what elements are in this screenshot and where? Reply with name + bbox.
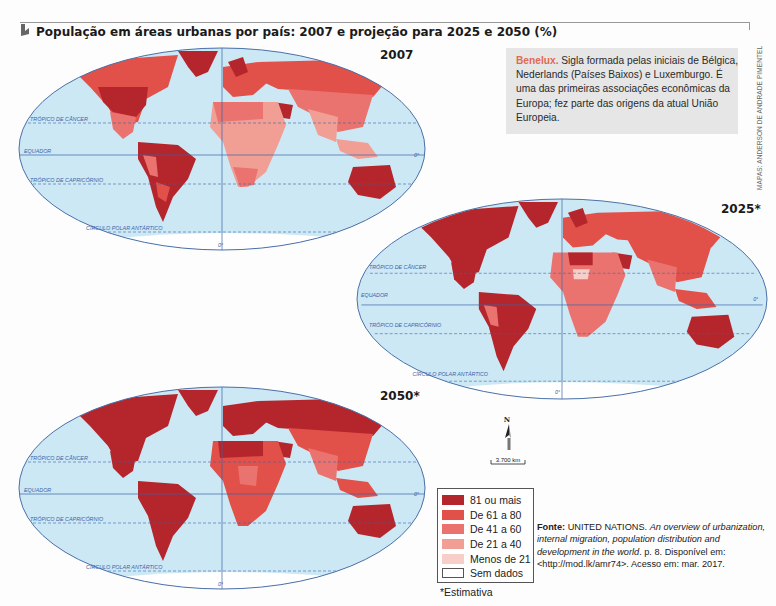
map-year-label: 2007 [380, 48, 413, 62]
label-tropic-cancer: TRÓPICO DE CÂNCER [369, 264, 426, 270]
label-tropic-cancer: TRÓPICO DE CÂNCER [30, 116, 88, 122]
label-equator: EQUADOR [24, 148, 51, 154]
map-legend: 81 ou mais De 61 a 80 De 41 a 60 De 21 a… [437, 488, 534, 583]
north-label: N [504, 415, 511, 424]
label-tropic-capricorn: TRÓPICO DE CAPRICÓRNIO [30, 177, 104, 183]
map-year-label: 2025* [721, 202, 761, 216]
label-tropic-capricorn: TRÓPICO DE CAPRICÓRNIO [369, 322, 441, 328]
label-tropic-cancer: TRÓPICO DE CÂNCER [30, 455, 88, 461]
estimate-note: *Estimativa [440, 586, 493, 598]
benelux-keyword: Benelux. [516, 55, 558, 66]
label-equator: EQUADOR [24, 487, 51, 493]
label-meridian: 0° [218, 242, 224, 248]
label-meridian: 0° [218, 581, 224, 587]
source-citation: Fonte: UNITED NATIONS. An overview of ur… [537, 521, 767, 571]
legend-swatch [442, 510, 464, 520]
benelux-info-box: Benelux. Sigla formada pelas iniciais de… [506, 48, 738, 134]
legend-swatch [442, 524, 464, 534]
legend-item: Menos de 21 [442, 551, 533, 566]
legend-item: 81 ou mais [442, 493, 533, 508]
scale-label: 3.700 km [496, 457, 521, 463]
label-antarctic-circle: CÍRCULO POLAR ANTÁRTICO [86, 225, 163, 231]
north-arrow-icon [505, 424, 509, 438]
legend-swatch [442, 554, 464, 564]
map-year-label: 2050* [380, 389, 420, 403]
map-2025: TRÓPICO DE CÂNCER EQUADOR TRÓPICO DE CAP… [353, 198, 773, 402]
legend-swatch [442, 568, 464, 578]
label-antarctic-circle: CÍRCULO POLAR ANTÁRTICO [412, 371, 488, 377]
legend-item: De 21 a 40 [442, 537, 533, 552]
label-equator-degree: 0° [753, 296, 758, 302]
page-title: População em áreas urbanas por país: 200… [36, 25, 557, 39]
legend-item: De 61 a 80 [442, 508, 533, 523]
label-tropic-capricorn: TRÓPICO DE CAPRICÓRNIO [30, 516, 104, 522]
title-marker-icon [20, 24, 30, 36]
legend-swatch [442, 539, 464, 549]
label-equator: EQUADOR [361, 292, 388, 298]
header-rule [20, 22, 750, 23]
map-2050: TRÓPICO DE CÂNCER EQUADOR TRÓPICO DE CAP… [18, 386, 428, 592]
label-meridian: 0° [555, 389, 560, 395]
header-rule-end [749, 22, 750, 30]
image-credit: MAPAS: ANDERSON DE ANDRADE PIMENTEL [756, 30, 763, 190]
legend-item: De 41 a 60 [442, 522, 533, 537]
source-label: Fonte: [537, 522, 565, 532]
label-equator-degree: 0° [414, 491, 420, 497]
label-antarctic-circle: CÍRCULO POLAR ANTÁRTICO [86, 564, 163, 570]
compass-and-scale: N 3.700 km [478, 410, 528, 476]
label-equator-degree: 0° [414, 152, 420, 158]
legend-item: Sem dados [442, 566, 533, 581]
legend-swatch [442, 495, 464, 505]
